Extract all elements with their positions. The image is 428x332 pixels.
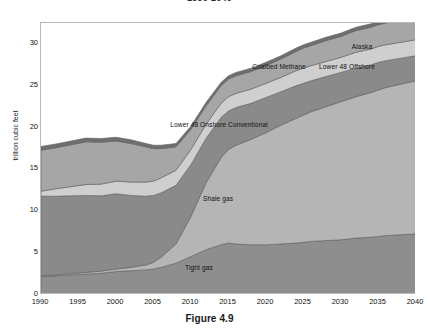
- x-tick-2000: 2000: [95, 298, 135, 306]
- figure-caption: Figure 4.9: [0, 313, 419, 324]
- series-label-coalbed-methane: Coalbed Methane: [252, 64, 306, 71]
- x-tick-2025: 2025: [283, 298, 323, 306]
- chart-title: 1990-2040: [0, 0, 419, 3]
- y-tick-5: 5: [4, 248, 38, 256]
- y-tick-10: 10: [4, 206, 38, 214]
- y-tick-15: 15: [4, 164, 38, 172]
- x-tick-1990: 1990: [20, 298, 60, 306]
- x-tick-2010: 2010: [170, 298, 210, 306]
- x-tick-2040: 2040: [395, 298, 428, 306]
- series-label-alaska: Alaska: [352, 44, 372, 51]
- x-tick-2005: 2005: [133, 298, 173, 306]
- x-tick-2035: 2035: [358, 298, 398, 306]
- y-axis-tick-labels: 051015202530: [0, 0, 38, 332]
- series-label-shale-gas: Shale gas: [203, 196, 233, 203]
- x-tick-2015: 2015: [208, 298, 248, 306]
- x-tick-2020: 2020: [245, 298, 285, 306]
- series-label-lower-48-onshore-conventional: Lower 48 Onshore Conventional: [170, 122, 267, 129]
- x-tick-2030: 2030: [320, 298, 360, 306]
- y-tick-25: 25: [4, 81, 38, 89]
- series-label-lower-48-offshore: Lower 48 Offshore: [319, 64, 375, 71]
- y-tick-20: 20: [4, 123, 38, 131]
- x-tick-1995: 1995: [58, 298, 98, 306]
- y-tick-30: 30: [4, 39, 38, 47]
- series-label-tight-gas: Tight gas: [185, 265, 213, 272]
